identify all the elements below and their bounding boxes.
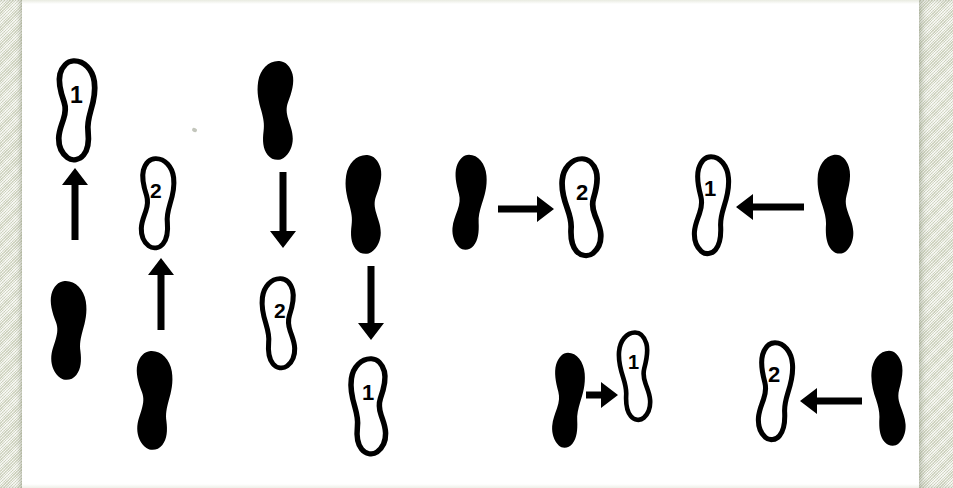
arrow-left-icon	[800, 388, 862, 414]
footprint-pair: 2	[0, 0, 953, 488]
footprint-group-left: 12	[0, 0, 953, 488]
footprint-number-label: 2	[768, 364, 780, 386]
footprint-diagram-canvas: 12212112	[0, 0, 953, 488]
filled-footprint-icon	[866, 348, 912, 448]
outline-footprint-icon	[752, 340, 798, 442]
